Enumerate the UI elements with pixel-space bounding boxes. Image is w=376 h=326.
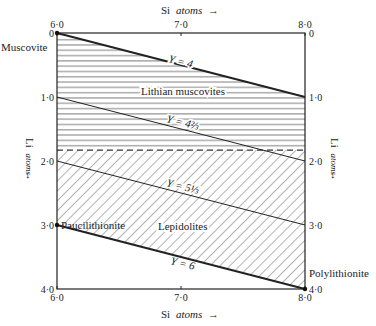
paucilithionite-label: Paucilithionite	[61, 219, 125, 231]
y-tick-label-left: 2·0	[41, 156, 54, 167]
y-tick-label-right: 0	[309, 28, 314, 39]
x-tick-label-bottom: 7·0	[174, 292, 187, 303]
y-tick-label-right: 1·0	[309, 92, 322, 103]
si-li-diagram: 6·06·07·07·08·08·001·02·03·04·001·02·03·…	[0, 0, 376, 326]
top-x-axis-label: Si atoms →	[161, 4, 219, 16]
y-tick-label-left: 3·0	[41, 220, 54, 231]
lithian-muscovites-label: Lithian muscovites	[141, 85, 225, 97]
x-tick-label-top: 7·0	[174, 19, 187, 30]
muscovite-label: Muscovite	[1, 41, 48, 53]
right-y-axis-arrow: ↓	[330, 168, 336, 180]
polylithionite-label: Polylithionite	[309, 267, 369, 279]
lepidolites-label: Lepidolites	[158, 220, 208, 232]
bottom-x-axis-label: Si atoms →	[161, 308, 219, 320]
y-tick-label-right: 3·0	[309, 220, 322, 231]
y-tick-label-left: 1·0	[41, 92, 54, 103]
y-tick-label-left: 0	[49, 28, 54, 39]
point-muscovite	[55, 31, 59, 35]
point-polylithionite	[303, 287, 307, 291]
point-paucilithionite	[55, 223, 59, 227]
left-y-axis-arrow: ↓	[25, 168, 31, 180]
y-tick-label-left: 4·0	[41, 284, 54, 295]
y-tick-label-right: 2·0	[309, 156, 322, 167]
y-tick-label-right: 4·0	[309, 284, 322, 295]
